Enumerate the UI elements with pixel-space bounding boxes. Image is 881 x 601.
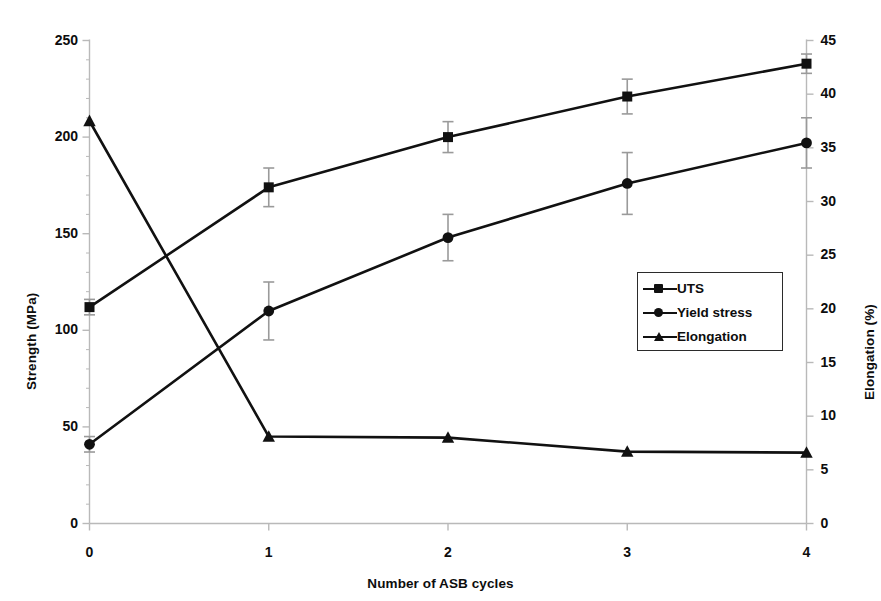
data-point-yield-stress[interactable] bbox=[622, 178, 633, 189]
y-axis-right-tick-label: 30 bbox=[821, 193, 881, 209]
y-axis-right-tick-label: 45 bbox=[821, 32, 881, 48]
series-line-uts bbox=[90, 64, 807, 307]
data-point-yield-stress[interactable] bbox=[443, 232, 454, 243]
y-axis-left-tick-label: 50 bbox=[8, 418, 78, 434]
data-point-yield-stress[interactable] bbox=[801, 137, 812, 148]
y-axis-left-tick-label: 0 bbox=[8, 515, 78, 531]
x-axis-tick-label: 1 bbox=[239, 544, 299, 560]
y-axis-right-tick-label: 15 bbox=[821, 354, 881, 370]
legend-item-yield-stress: Yield stress bbox=[638, 301, 782, 325]
data-point-uts[interactable] bbox=[802, 59, 812, 69]
data-point-yield-stress[interactable] bbox=[263, 306, 274, 317]
data-point-uts[interactable] bbox=[443, 132, 453, 142]
legend-marker-triangle-icon bbox=[643, 329, 677, 345]
legend-label-uts: UTS bbox=[677, 282, 704, 296]
y-axis-right-tick-label: 20 bbox=[821, 300, 881, 316]
y-axis-left-tick-label: 100 bbox=[8, 321, 78, 337]
legend-item-uts: UTS bbox=[638, 277, 782, 301]
y-axis-right-tick-label: 10 bbox=[821, 407, 881, 423]
x-axis-tick-label: 3 bbox=[597, 544, 657, 560]
data-point-yield-stress[interactable] bbox=[84, 439, 95, 450]
data-point-elongation[interactable] bbox=[83, 115, 95, 127]
x-axis-tick-label: 2 bbox=[418, 544, 478, 560]
data-point-uts[interactable] bbox=[85, 302, 95, 312]
chart-legend: UTS Yield stress Elongation bbox=[637, 272, 783, 351]
y-axis-right-title: Elongation (%) bbox=[862, 304, 877, 400]
x-axis-tick-label: 4 bbox=[777, 544, 837, 560]
y-axis-left-tick-label: 250 bbox=[8, 32, 78, 48]
legend-marker-square-icon bbox=[643, 281, 677, 297]
y-axis-right-tick-label: 0 bbox=[821, 515, 881, 531]
y-axis-left-title: Strength (MPa) bbox=[24, 293, 39, 390]
data-point-uts[interactable] bbox=[264, 182, 274, 192]
y-axis-right-tick-label: 25 bbox=[821, 246, 881, 262]
chart-figure: Strength (MPa) Elongation (%) Number of … bbox=[0, 0, 881, 601]
legend-item-elongation: Elongation bbox=[638, 325, 782, 349]
y-axis-left-tick-label: 150 bbox=[8, 225, 78, 241]
y-axis-left-tick-label: 200 bbox=[8, 128, 78, 144]
x-axis-tick-label: 0 bbox=[60, 544, 120, 560]
y-axis-right-tick-label: 5 bbox=[821, 461, 881, 477]
y-axis-right-tick-label: 35 bbox=[821, 139, 881, 155]
legend-marker-circle-icon bbox=[643, 305, 677, 321]
y-axis-right-tick-label: 40 bbox=[821, 85, 881, 101]
legend-label-yield-stress: Yield stress bbox=[677, 306, 752, 320]
data-point-uts[interactable] bbox=[622, 92, 632, 102]
legend-label-elongation: Elongation bbox=[677, 330, 747, 344]
x-axis-title: Number of ASB cycles bbox=[0, 576, 881, 591]
